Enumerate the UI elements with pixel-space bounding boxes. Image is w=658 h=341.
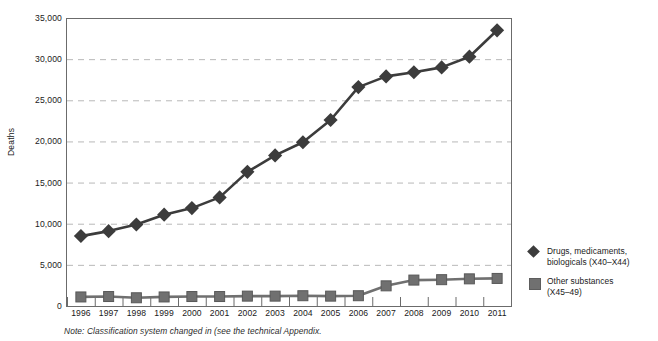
chart-legend: Drugs, medicaments, biologicals (X40–X44… — [528, 246, 654, 306]
chart-note: Note: Classification system changed in (… — [64, 326, 322, 336]
legend-label-drugs-line2: biologicals (X40–X44) — [547, 257, 630, 267]
x-tick-label: 1996 — [71, 308, 91, 318]
data-point-square — [409, 275, 419, 285]
legend-item-other: Other substances (X45–49) — [528, 276, 654, 297]
data-point-square — [76, 292, 86, 302]
x-tick-label: 2004 — [293, 308, 313, 318]
data-point-square — [326, 291, 336, 301]
legend-label-drugs: Drugs, medicaments, biologicals (X40–X44… — [547, 246, 630, 267]
x-tick-label: 2009 — [432, 308, 452, 318]
data-point-square — [215, 292, 225, 302]
data-point-square — [104, 292, 114, 302]
x-tick-label: 2001 — [210, 308, 230, 318]
x-tick-label: 2010 — [460, 308, 480, 318]
x-tick-label: 1998 — [127, 308, 147, 318]
data-point-square — [159, 292, 169, 302]
data-point-square — [187, 292, 197, 302]
data-point-square — [131, 293, 141, 303]
legend-label-other: Other substances (X45–49) — [547, 276, 613, 297]
x-tick-label: 2008 — [404, 308, 424, 318]
square-marker-icon — [528, 276, 542, 290]
data-point-square — [242, 291, 252, 301]
legend-label-other-line1: Other substances — [547, 276, 613, 286]
data-point-square — [298, 291, 308, 301]
data-point-square — [437, 275, 447, 285]
diamond-marker-icon — [528, 246, 542, 260]
x-tick-label: 2007 — [376, 308, 396, 318]
data-point-square — [353, 291, 363, 301]
legend-label-drugs-line1: Drugs, medicaments, — [547, 246, 627, 256]
x-tick-label: 2005 — [321, 308, 341, 318]
x-tick-label: 2000 — [182, 308, 202, 318]
data-point-square — [270, 291, 280, 301]
data-point-square — [492, 273, 502, 283]
plot-border — [67, 19, 512, 307]
x-tick-label: 1997 — [99, 308, 119, 318]
x-tick-label: 2002 — [238, 308, 258, 318]
data-point-square — [464, 274, 474, 284]
x-tick-label: 1999 — [154, 308, 174, 318]
x-tick-label: 2011 — [488, 308, 507, 318]
data-point-square — [381, 281, 391, 291]
x-tick-label: 2006 — [349, 308, 369, 318]
legend-item-drugs: Drugs, medicaments, biologicals (X40–X44… — [528, 246, 654, 267]
chart-figure: Deaths 0 5,000 10,000 15,000 20,000 25,0… — [0, 0, 658, 341]
legend-label-other-line2: (X45–49) — [547, 287, 582, 297]
x-tick-label: 2003 — [265, 308, 285, 318]
